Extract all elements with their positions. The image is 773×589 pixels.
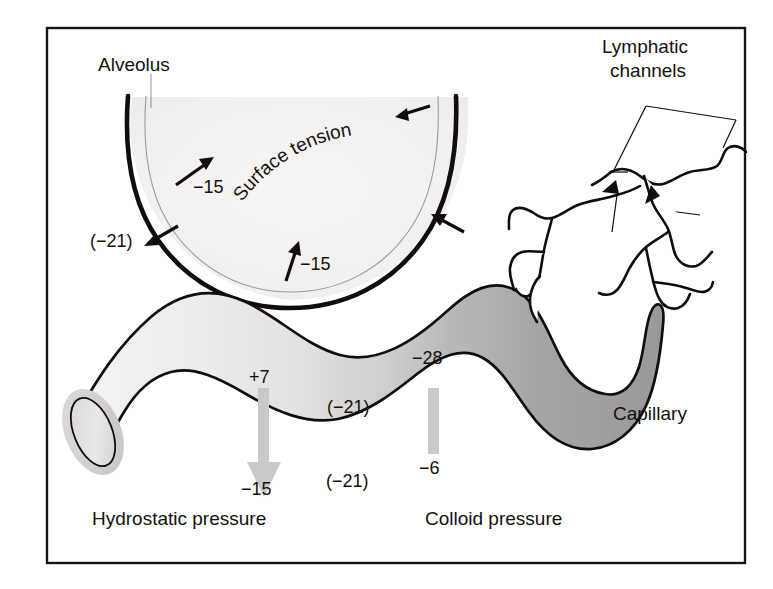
colloid-pressure-label: Colloid pressure	[425, 508, 562, 529]
alveolus-label: Alveolus	[98, 54, 170, 75]
figure-root: Alveolus Lymphatic channels Surface tens…	[0, 0, 773, 589]
value-interstitial-lower: (−21)	[326, 471, 369, 491]
value-capillary-hydrostatic: +7	[249, 367, 270, 387]
value-colloid-out: −6	[419, 458, 440, 478]
lymphatic-inflow-arrow-left	[602, 180, 619, 194]
alveolar-capillary-diagram: Alveolus Lymphatic channels Surface tens…	[0, 0, 773, 589]
lymphatic-channels-label-line2: channels	[610, 60, 686, 81]
hydrostatic-pressure-label: Hydrostatic pressure	[92, 508, 266, 529]
capillary-label: Capillary	[613, 403, 687, 424]
capillary-group	[50, 285, 663, 484]
value-hydrostatic-out: −15	[241, 479, 272, 499]
alveolus-group	[127, 74, 468, 308]
lymphatic-channels-group	[509, 106, 746, 322]
value-surface-tension-lower: −15	[300, 254, 331, 274]
colloid-grey-arrow	[428, 388, 439, 454]
value-surface-tension-upper: −15	[193, 177, 224, 197]
value-alveolus-outward: (−21)	[90, 231, 133, 251]
lymphatic-channels-label-line1: Lymphatic	[602, 36, 688, 57]
value-capillary-colloid: −28	[412, 348, 443, 368]
value-interstitial-upper: (−21)	[327, 397, 370, 417]
capillary-body	[83, 285, 663, 459]
